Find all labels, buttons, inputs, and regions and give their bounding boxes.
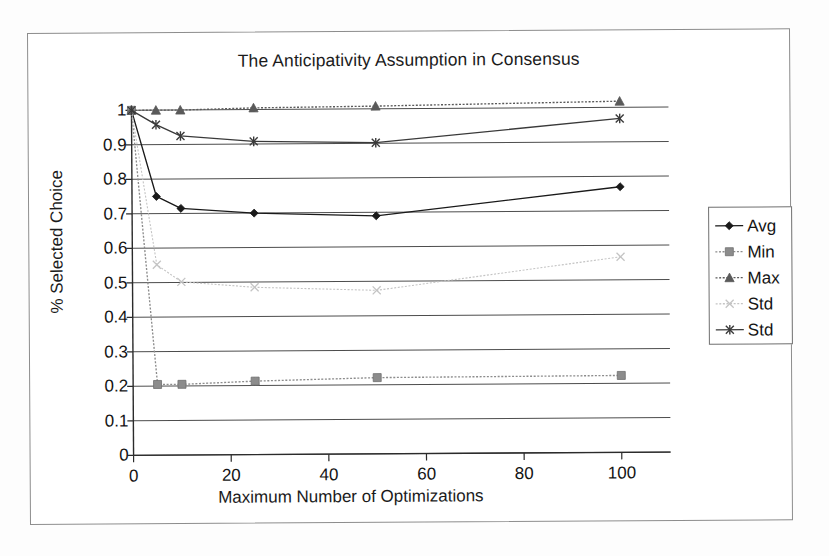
legend-item-label: Max [747, 269, 779, 286]
plot-area: 00.10.20.30.40.50.60.70.80.91 0204060801… [28, 29, 794, 526]
marker-triangle [725, 273, 734, 282]
data-point-marker [725, 248, 733, 256]
legend-item-min-1[interactable]: Min [709, 238, 791, 265]
x-axis-title: Maximum Number of Optimizations [31, 485, 671, 509]
data-point-marker [725, 273, 734, 282]
legend-marker-asterisk-icon [715, 323, 745, 337]
x-axis-tick-label: 80 [494, 464, 554, 484]
legend-marker-diamond-icon [714, 219, 744, 233]
x-axis-tick-label: 60 [397, 464, 457, 484]
legend-marker-square-icon [714, 245, 744, 259]
x-axis-tick-label: 40 [299, 465, 359, 485]
data-point-marker [725, 222, 733, 230]
legend-marker-cross-icon [715, 297, 745, 311]
legend-item-avg-0[interactable]: Avg [709, 212, 791, 239]
chart-legend: AvgMinMaxStdStd [708, 206, 793, 345]
marker-square [725, 248, 733, 256]
legend-item-label: Min [747, 243, 775, 260]
legend-item-label: Std [748, 321, 774, 338]
legend-item-label: Avg [747, 217, 776, 234]
x-axis-tick-label: 100 [592, 463, 652, 483]
y-axis-title: % Selected Choice [47, 122, 68, 362]
legend-item-std-3[interactable]: Std [710, 290, 792, 317]
legend-item-label: Std [748, 295, 774, 312]
legend-item-std-4[interactable]: Std [710, 316, 792, 343]
x-axis-tick-label: 20 [201, 466, 261, 486]
legend-item-max-2[interactable]: Max [709, 264, 791, 291]
x-axis-tick-labels: 020406080100 [28, 29, 794, 526]
legend-marker-triangle-icon [714, 271, 744, 285]
x-axis-tick-label: 0 [104, 466, 164, 486]
chart-frame: The Anticipativity Assumption in Consens… [27, 28, 793, 525]
marker-diamond [725, 222, 733, 230]
